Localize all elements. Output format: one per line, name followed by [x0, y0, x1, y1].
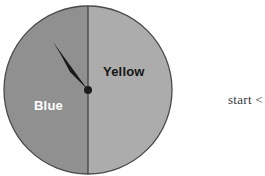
sector-label-blue: Blue: [34, 98, 63, 113]
spinner-wheel-graphic[interactable]: [0, 0, 265, 176]
start-annotation: start <: [228, 92, 263, 108]
spinner-hub[interactable]: [84, 86, 92, 94]
spinner-diagram: Yellow Blue start <: [0, 0, 265, 176]
sector-label-yellow: Yellow: [103, 64, 145, 79]
